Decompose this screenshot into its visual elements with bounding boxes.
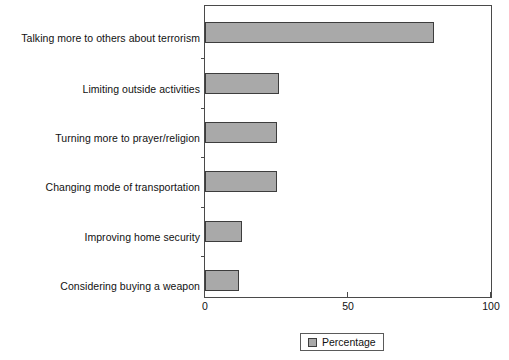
legend-label-percentage: Percentage — [322, 336, 376, 348]
x-axis-tick-2 — [490, 292, 491, 297]
bar-3[interactable] — [205, 171, 277, 192]
category-axis-labels: Talking more to others about terrorism L… — [0, 5, 200, 296]
legend-swatch-icon — [308, 338, 317, 347]
bar-2[interactable] — [205, 122, 277, 143]
y-axis-tick-3 — [201, 207, 205, 208]
y-axis-tick-2 — [201, 157, 205, 158]
bar-4[interactable] — [205, 221, 242, 242]
plot-area — [204, 5, 492, 298]
category-label-5: Considering buying a weapon — [0, 280, 200, 292]
x-axis-label-2: 100 — [482, 300, 500, 312]
bar-5[interactable] — [205, 270, 239, 291]
y-axis-tick-4 — [201, 256, 205, 257]
bar-0[interactable] — [205, 22, 434, 43]
y-axis-tick-1 — [201, 108, 205, 109]
bar-chart: Talking more to others about terrorism L… — [0, 0, 509, 360]
y-axis-tick-0 — [201, 58, 205, 59]
bar-1[interactable] — [205, 73, 279, 94]
category-label-1: Limiting outside activities — [0, 83, 200, 95]
category-label-3: Changing mode of transportation — [0, 181, 200, 193]
category-label-2: Turning more to prayer/religion — [0, 132, 200, 144]
x-axis-tick-1 — [347, 292, 348, 297]
chart-legend[interactable]: Percentage — [300, 333, 384, 351]
x-axis-label-0: 0 — [202, 300, 208, 312]
x-axis-label-1: 50 — [342, 300, 354, 312]
category-label-0: Talking more to others about terrorism — [0, 32, 200, 44]
category-label-4: Improving home security — [0, 231, 200, 243]
x-axis-tick-0 — [204, 292, 205, 297]
